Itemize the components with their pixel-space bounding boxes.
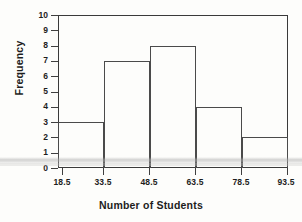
x-tick-mark [287, 168, 288, 175]
histogram-figure: Frequency 0 1 2 3 4 5 6 7 8 9 10 18.5 33… [0, 0, 302, 222]
x-tick-label: 48.5 [141, 177, 158, 187]
x-tick-mark [103, 168, 104, 175]
x-tick-label: 33.5 [95, 177, 112, 187]
x-tick-mark [241, 168, 242, 175]
x-tick-label: 63.5 [187, 177, 204, 187]
x-tick-mark [62, 168, 63, 175]
x-axis-title: Number of Students [0, 199, 302, 211]
x-tick-mark [195, 168, 196, 175]
x-tick-label: 93.5 [278, 177, 295, 187]
x-tick-label: 18.5 [54, 177, 71, 187]
x-tick-mark [149, 168, 150, 175]
x-axis: 18.5 33.5 48.5 63.5 78.5 93.5 Number of … [0, 0, 302, 222]
x-tick-label: 78.5 [233, 177, 250, 187]
